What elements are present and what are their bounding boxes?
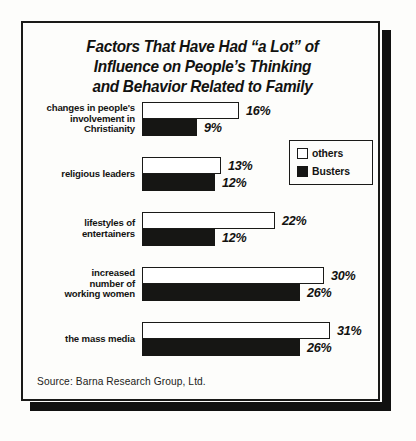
bar-others — [142, 212, 275, 229]
category-label-line: the mass media — [23, 334, 135, 345]
category-label: lifestyles of entertainers — [23, 218, 135, 239]
category-label: the mass media — [23, 334, 135, 345]
bar-group: lifestyles of entertainers 22% 12% — [23, 210, 382, 248]
chart-title: Factors That Have Had “a Lot” of Influen… — [36, 36, 370, 96]
category-label-line: increased — [23, 268, 135, 279]
chart-legend: others Busters — [289, 140, 373, 185]
bar-group: the mass media 31% 26% — [23, 320, 382, 358]
chart-frame: Factors That Have Had “a Lot” of Influen… — [21, 21, 380, 401]
bar-value-busters: 26% — [307, 341, 332, 355]
bar-busters — [142, 284, 300, 301]
category-label-line: changes in people's — [23, 103, 135, 114]
bar-busters — [142, 174, 215, 191]
frame-drop-shadow-bottom — [30, 402, 391, 411]
bar-others — [142, 322, 330, 339]
legend-item-busters: Busters — [297, 164, 366, 179]
category-label: changes in people's involvement in Chris… — [23, 103, 135, 135]
source-note: Source: Barna Research Group, Ltd. — [37, 376, 206, 387]
legend-label-busters: Busters — [312, 166, 350, 177]
bar-others — [142, 157, 221, 174]
category-label: increased number of working women — [23, 268, 135, 300]
bar-group: increased number of working women 30% 26… — [23, 265, 382, 303]
bar-value-busters: 12% — [222, 176, 247, 190]
bar-value-others: 30% — [331, 269, 356, 283]
bar-value-busters: 9% — [204, 121, 222, 135]
bar-busters — [142, 339, 300, 356]
bar-value-others: 13% — [228, 159, 253, 173]
category-label: religious leaders — [23, 169, 135, 180]
bar-others — [142, 267, 324, 284]
bar-others — [142, 102, 239, 119]
category-label-line: lifestyles of — [23, 218, 135, 229]
category-label-line: Christianity — [23, 124, 135, 135]
chart-title-line-2: Influence on People’s Thinking — [36, 56, 370, 76]
frame-drop-shadow-right — [382, 30, 391, 411]
bar-value-busters: 12% — [222, 231, 247, 245]
bar-busters — [142, 229, 215, 246]
bar-value-others: 22% — [282, 214, 307, 228]
chart-figure: Factors That Have Had “a Lot” of Influen… — [0, 0, 416, 441]
bar-value-others: 31% — [337, 324, 362, 338]
chart-title-line-1: Factors That Have Had “a Lot” of — [36, 36, 370, 56]
category-label-line: entertainers — [23, 229, 135, 240]
legend-item-others: others — [297, 146, 366, 161]
category-label-line: working women — [23, 289, 135, 300]
bar-value-busters: 26% — [307, 286, 332, 300]
legend-swatch-others-icon — [297, 148, 308, 159]
bar-value-others: 16% — [246, 104, 271, 118]
legend-label-others: others — [312, 148, 343, 159]
category-label-line: religious leaders — [23, 169, 135, 180]
legend-swatch-busters-icon — [297, 166, 308, 177]
bar-busters — [142, 119, 197, 136]
bar-group: changes in people's involvement in Chris… — [23, 100, 382, 138]
chart-title-line-3: and Behavior Related to Family — [36, 76, 370, 96]
